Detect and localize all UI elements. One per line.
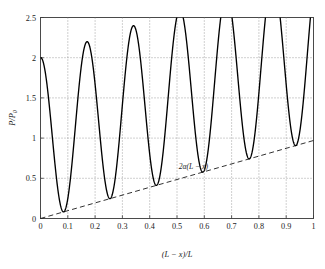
x-tick-label: 0 xyxy=(38,222,42,231)
baseline-annotation: 2α(L − x) xyxy=(179,162,209,171)
y-tick-label: 1 xyxy=(32,134,36,143)
y-tick-label: 0.5 xyxy=(26,174,36,183)
y-tick-label: 1.5 xyxy=(26,94,36,103)
chart-svg: 00.10.20.30.40.50.60.70.80.91 00.511.522… xyxy=(0,0,325,269)
y-tick-label: 2.5 xyxy=(26,14,36,23)
figure-container: 00.10.20.30.40.50.60.70.80.91 00.511.522… xyxy=(0,0,325,269)
x-tick-label: 0.4 xyxy=(145,222,155,231)
x-axis-title: (L − x)/L xyxy=(162,250,193,259)
x-tick-label: 0.9 xyxy=(281,222,291,231)
x-tick-label: 0.5 xyxy=(172,222,182,231)
x-tick-label: 0.6 xyxy=(199,222,209,231)
y-tick-label: 0 xyxy=(32,215,36,224)
x-tick-label: 0.2 xyxy=(90,222,100,231)
y-tick-label: 2 xyxy=(32,54,36,63)
x-tick-label: 0.1 xyxy=(63,222,73,231)
x-tick-label: 0.7 xyxy=(226,222,236,231)
x-tick-label: 0.3 xyxy=(117,222,127,231)
svg-text:2α(L − x): 2α(L − x) xyxy=(179,162,209,171)
x-tick-label: 1 xyxy=(311,222,315,231)
x-tick-label: 0.8 xyxy=(254,222,264,231)
